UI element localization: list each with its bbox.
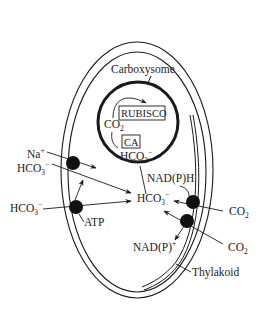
transporter-na-hco3 xyxy=(66,156,80,170)
na-label: Na+ xyxy=(27,146,45,160)
rubisco-label: RUBISCO xyxy=(121,108,167,119)
ccm-diagram: Carboxysome RUBISCO CO2 CA HCO3− Na+ HCO… xyxy=(0,0,259,312)
outer-membrane xyxy=(61,42,213,298)
hco3-bottom-input-line xyxy=(43,201,131,209)
hco3-bottom-left-label: HCO3− xyxy=(10,200,42,217)
transporter-atp-hco3 xyxy=(69,200,83,214)
thylakoid-label: Thylakoid xyxy=(192,266,240,279)
hco3-cytosol-label: HCO3− xyxy=(137,190,169,207)
arrow-hco3-to-co2 xyxy=(112,132,118,148)
hco3-top-input-line xyxy=(52,164,131,193)
nadph-label: NAD(P)H xyxy=(147,172,194,185)
diagram-stage: Carboxysome RUBISCO CO2 CA HCO3− Na+ HCO… xyxy=(0,0,259,312)
co2-right-top-label: CO2 xyxy=(229,205,249,220)
ca-label: CA xyxy=(124,137,139,148)
nadp-output-arrow xyxy=(175,226,184,240)
hco3-entry-line xyxy=(140,166,146,194)
transporter-co2-1 xyxy=(186,195,200,209)
carboxysome-leader xyxy=(148,76,151,83)
co2-right-bottom-label: CO2 xyxy=(228,241,248,256)
nadp-label: NAD(P)+ xyxy=(133,239,176,254)
carboxysome-label: Carboxysome xyxy=(111,63,175,76)
transporter-co2-2 xyxy=(180,214,194,228)
atp-label: ATP xyxy=(84,216,104,228)
atp-to-na-arrow xyxy=(75,180,83,200)
hco3-top-left-label: HCO3− xyxy=(17,160,49,177)
